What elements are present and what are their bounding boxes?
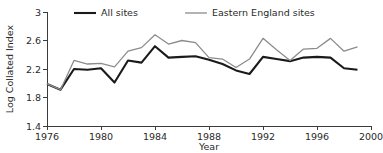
x-axis-ticks: 1976198019841988199219962000 [35,126,383,142]
series-line-eastern-england-sites [47,35,358,90]
chart-canvas: 1.41.82.22.63 19761980198419881992199620… [0,0,383,153]
legend-label: Eastern England sites [212,7,315,18]
x-tick-label: 1996 [305,131,329,142]
chart-legend: All sitesEastern England sites [74,7,315,18]
series-line-all-sites [47,46,358,89]
x-tick-label: 1976 [35,131,59,142]
y-tick-label: 1.4 [26,121,41,132]
legend-label: All sites [101,7,138,18]
line-chart: 1.41.82.22.63 19761980198419881992199620… [0,0,383,153]
x-tick-label: 1984 [143,131,167,142]
x-tick-label: 2000 [359,131,383,142]
x-tick-label: 1992 [251,131,275,142]
y-tick-label: 2.6 [26,35,41,46]
x-axis-title: Year [198,141,219,152]
y-axis-title: Log Collated Index [4,24,15,113]
x-tick-label: 1980 [89,131,113,142]
y-tick-label: 3 [35,7,41,18]
y-tick-label: 2.2 [26,64,41,75]
series-lines [47,35,358,90]
y-axis-ticks: 1.41.82.22.63 [26,7,47,132]
y-tick-label: 1.8 [26,92,41,103]
